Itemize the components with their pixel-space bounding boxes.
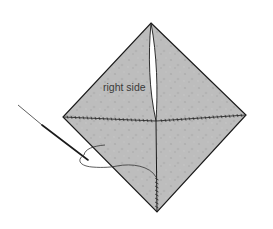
sewing-diagram: right side <box>0 0 273 229</box>
fabric-top-right-panel <box>151 23 246 121</box>
fabric-top-left-panel <box>63 23 156 121</box>
right-side-label: right side <box>103 81 146 93</box>
